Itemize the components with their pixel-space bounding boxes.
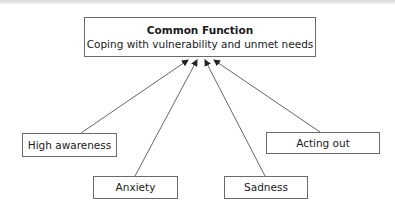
- arrow-anxiety: [135, 60, 197, 176]
- arrow-acting-out: [214, 60, 320, 132]
- node-high-awareness: High awareness: [22, 133, 117, 157]
- node-label: Acting out: [296, 138, 350, 149]
- node-label: Anxiety: [116, 182, 156, 193]
- node-anxiety: Anxiety: [93, 176, 178, 199]
- node-sadness: Sadness: [224, 176, 308, 199]
- common-function-title: Common Function: [147, 25, 253, 36]
- common-function-box: Common Function Coping with vulnerabilit…: [84, 17, 316, 57]
- arrow-high-awareness: [81, 60, 188, 133]
- node-label: Sadness: [244, 182, 288, 193]
- node-acting-out: Acting out: [266, 132, 380, 154]
- common-function-subtitle: Coping with vulnerability and unmet need…: [87, 39, 314, 50]
- node-label: High awareness: [28, 140, 112, 151]
- arrow-sadness: [205, 60, 265, 176]
